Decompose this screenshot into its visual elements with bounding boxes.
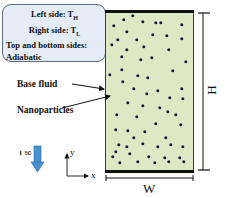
gravity-arrow	[34, 146, 41, 163]
gravity-label: g	[21, 151, 31, 156]
nanoparticle-pointer	[62, 96, 110, 108]
diagram-lines	[0, 0, 226, 198]
gravity-symbol: g	[21, 151, 31, 156]
x-axis-label: x	[91, 170, 96, 180]
width-label: W	[143, 181, 155, 197]
base-fluid-pointer	[72, 84, 104, 89]
y-axis-label: y	[70, 147, 75, 157]
height-label: H	[204, 85, 220, 94]
